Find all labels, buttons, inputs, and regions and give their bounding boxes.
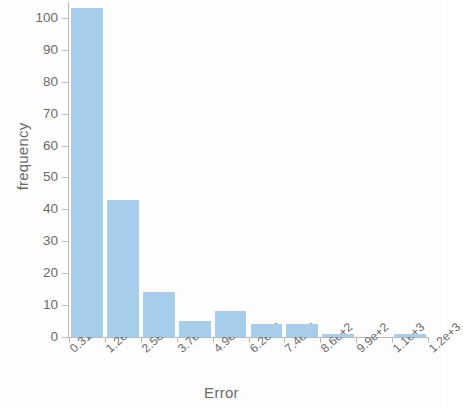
y-axis-tick [62, 114, 69, 115]
histogram-bar [179, 321, 211, 337]
y-axis-tick-label: 60 [12, 139, 58, 153]
y-axis-tick [62, 82, 69, 83]
y-axis-tick-label: 50 [12, 170, 58, 184]
histogram-bar [286, 324, 318, 337]
y-axis-tick-label-wrap: 20 [0, 266, 58, 280]
histogram-bar [107, 200, 139, 337]
y-axis-tick-label: 20 [12, 266, 58, 280]
y-axis-tick-label-wrap: 70 [0, 107, 58, 121]
y-axis-tick-label: 40 [12, 202, 58, 216]
y-axis-tick-label-wrap: 0 [0, 330, 58, 344]
histogram-bar [394, 334, 426, 337]
y-axis-tick-label: 0 [12, 330, 58, 344]
y-axis-tick [62, 337, 69, 338]
histogram-bar [322, 334, 354, 337]
y-axis-tick-label: 70 [12, 107, 58, 121]
y-axis-tick [62, 209, 69, 210]
y-axis-tick [62, 177, 69, 178]
x-axis-title: Error [0, 384, 443, 401]
y-axis-tick-label-wrap: 10 [0, 298, 58, 312]
y-axis-tick-label: 90 [12, 43, 58, 57]
y-axis-tick-label-wrap: 80 [0, 75, 58, 89]
y-axis-tick-label: 80 [12, 75, 58, 89]
y-axis-tick [62, 273, 69, 274]
histogram-bar [71, 8, 103, 337]
x-axis-tick-label: 1.2e+3 [426, 320, 463, 356]
y-axis-tick-label: 30 [12, 234, 58, 248]
y-axis-tick-label-wrap: 90 [0, 43, 58, 57]
histogram-bar [215, 311, 247, 337]
y-axis-tick-label-wrap: 30 [0, 234, 58, 248]
histogram-bars [69, 2, 428, 337]
histogram-bar [251, 324, 283, 337]
y-axis-tick [62, 305, 69, 306]
y-axis-tick-label-wrap: 100 [0, 11, 58, 25]
y-axis-tick [62, 18, 69, 19]
y-axis-tick [62, 241, 69, 242]
y-axis-tick-label-wrap: 40 [0, 202, 58, 216]
y-axis-tick-label: 10 [12, 298, 58, 312]
y-axis-tick-label-wrap: 60 [0, 139, 58, 153]
y-axis-tick-label-wrap: 50 [0, 170, 58, 184]
y-axis-tick [62, 50, 69, 51]
y-axis-tick-label: 100 [12, 11, 58, 25]
histogram-bar [143, 292, 175, 337]
y-axis-tick [62, 146, 69, 147]
